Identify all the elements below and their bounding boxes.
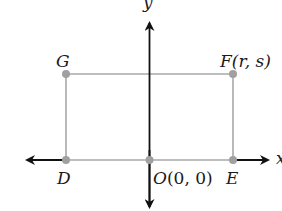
point-o bbox=[146, 156, 154, 164]
label-e: E bbox=[226, 170, 238, 187]
point-f bbox=[229, 70, 237, 78]
label-o-coords: (0, 0) bbox=[167, 168, 213, 188]
label-f: F(r, s) bbox=[220, 53, 271, 70]
diagram-graphic bbox=[0, 0, 282, 211]
label-e-name: E bbox=[226, 168, 238, 188]
label-g-name: G bbox=[56, 51, 70, 71]
label-o-name: O bbox=[153, 168, 167, 188]
y-axis-label: y bbox=[143, 0, 153, 11]
label-f-name: F bbox=[220, 51, 232, 71]
point-d bbox=[62, 156, 70, 164]
label-o: O(0, 0) bbox=[153, 170, 213, 187]
label-g: G bbox=[56, 53, 70, 70]
coordinate-diagram: y x G F(r, s) D O(0, 0) E bbox=[0, 0, 282, 211]
label-d: D bbox=[57, 170, 71, 187]
label-f-coords: (r, s) bbox=[232, 51, 271, 71]
x-axis-label: x bbox=[276, 150, 282, 167]
point-g bbox=[62, 70, 70, 78]
label-d-name: D bbox=[57, 168, 71, 188]
point-e bbox=[229, 156, 237, 164]
